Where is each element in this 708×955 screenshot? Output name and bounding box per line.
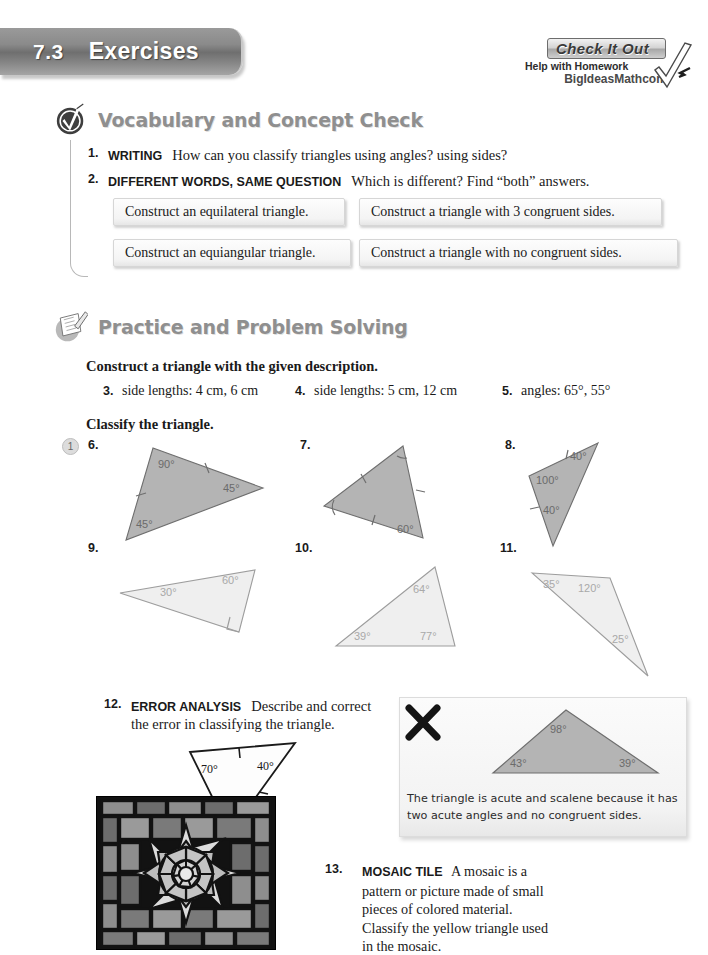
figure-7-triangle: 60°	[315, 438, 445, 548]
page-title: Exercises	[89, 38, 199, 65]
figure-6-angle-2: 45°	[223, 482, 240, 494]
figure-7-number: 7.	[300, 438, 310, 452]
check-it-out-badge[interactable]: Check It Out Help with Homework BigIdeas…	[519, 38, 694, 96]
question-2-tag: DIFFERENT WORDS, SAME QUESTION	[108, 175, 341, 189]
figure-12-angle-1: 70°	[201, 762, 218, 776]
figure-8-number: 8.	[505, 438, 515, 452]
mosaic-tile-photo	[96, 796, 276, 950]
question-2-number: 2.	[88, 172, 108, 190]
ea-triangle-angle-right: 39°	[619, 757, 636, 769]
exercise-3: 3. side lengths: 4 cm, 6 cm	[103, 383, 258, 399]
choice-option-equilateral[interactable]: Construct an equilateral triangle.	[113, 198, 345, 226]
check-it-out-title: Check It Out	[547, 38, 666, 59]
question-1-number: 1.	[88, 146, 108, 164]
exercise-5-text: angles: 65°, 55°	[521, 383, 610, 398]
exercise-3-text: side lengths: 4 cm, 6 cm	[122, 383, 258, 398]
figure-10-angle-3: 77°	[420, 630, 437, 642]
question-12: 12. ERROR ANALYSIS Describe and correct …	[104, 697, 389, 733]
question-1-text: How can you classify triangles using ang…	[172, 147, 507, 163]
question-2: 2. DIFFERENT WORDS, SAME QUESTION Which …	[88, 172, 678, 190]
question-2-text: Which is different? Find “both” answers.	[351, 173, 589, 189]
vocabulary-bracket	[70, 140, 88, 277]
choice-option-3-congruent-sides[interactable]: Construct a triangle with 3 congruent si…	[359, 198, 662, 226]
x-mark-icon	[404, 704, 442, 742]
figure-12-angle-2: 40°	[257, 759, 274, 773]
figure-8-angle-3: 40°	[543, 504, 560, 516]
figure-7-angle-1: 60°	[397, 523, 414, 535]
section-header-banner: 7.3 Exercises	[0, 28, 243, 75]
figure-9-triangle: 30° 60°	[105, 548, 270, 648]
figure-6-triangle: 90° 45° 45°	[105, 438, 280, 553]
figure-11-angle-3: 25°	[612, 633, 629, 645]
exercise-3-number: 3.	[103, 384, 113, 398]
figure-6-angle-1: 90°	[158, 458, 175, 470]
exercise-4: 4. side lengths: 5 cm, 12 cm	[295, 383, 457, 399]
question-1-tag: WRITING	[108, 149, 162, 163]
vocabulary-heading-text: Vocabulary and Concept Check	[98, 109, 423, 131]
exercise-5: 5. angles: 65°, 55°	[502, 383, 610, 399]
figure-8-triangle: 40° 100° 40°	[520, 438, 620, 553]
check-it-out-url-suffix: com	[642, 72, 667, 86]
check-it-out-subtitle: Help with Homework	[519, 60, 694, 72]
figure-11-angle-1: 35°	[543, 578, 560, 590]
figure-6-angle-3: 45°	[136, 518, 153, 530]
ea-triangle-angle-left: 43°	[510, 757, 527, 769]
figure-11-angle-2: 120°	[578, 582, 601, 594]
ea-triangle-angle-top: 98°	[550, 723, 567, 735]
question-12-number: 12.	[104, 697, 124, 711]
question-12-tag: ERROR ANALYSIS	[131, 700, 241, 714]
figure-9-angle-2: 60°	[222, 574, 239, 586]
practice-heading-text: Practice and Problem Solving	[98, 316, 408, 338]
figure-10-triangle: 64° 39° 77°	[310, 548, 495, 658]
question-13-number: 13.	[325, 862, 342, 876]
question-1: 1. WRITING How can you classify triangle…	[88, 146, 648, 164]
figure-10-angle-2: 39°	[354, 630, 371, 642]
figure-8-angle-1: 40°	[570, 450, 587, 462]
checkmark-badge-icon	[54, 103, 88, 137]
figure-10-angle-1: 64°	[413, 583, 430, 595]
example-reference-bubble: 1	[62, 438, 79, 455]
choice-option-equiangular[interactable]: Construct an equiangular triangle.	[113, 239, 351, 267]
practice-section-heading: Practice and Problem Solving	[54, 310, 408, 344]
vocabulary-section-heading: Vocabulary and Concept Check	[54, 103, 423, 137]
instruction-construct: Construct a triangle with the given desc…	[86, 358, 378, 375]
exercise-4-text: side lengths: 5 cm, 12 cm	[314, 383, 457, 398]
figure-9-number: 9.	[88, 541, 98, 555]
figure-8-angle-2: 100°	[536, 474, 559, 486]
figure-9-angle-1: 30°	[160, 586, 177, 598]
figure-11-number: 11.	[500, 541, 517, 555]
error-analysis-triangle: 98° 43° 39°	[488, 703, 683, 783]
error-analysis-statement: The triangle is acute and scalene becaus…	[401, 790, 686, 824]
check-it-out-url: BigIdeasMathcom	[519, 72, 694, 86]
exercise-4-number: 4.	[295, 384, 305, 398]
figure-6-number: 6.	[88, 438, 98, 452]
notepad-pencil-icon	[54, 310, 88, 344]
figure-11-triangle: 35° 120° 25°	[520, 548, 665, 683]
choice-option-no-congruent-sides[interactable]: Construct a triangle with no congruent s…	[359, 239, 678, 267]
section-number: 7.3	[33, 40, 64, 64]
question-13-tag: MOSAIC TILE	[362, 865, 443, 879]
instruction-classify: Classify the triangle.	[86, 416, 214, 433]
check-it-out-url-main: BigIdeasMath	[564, 72, 642, 86]
exercise-5-number: 5.	[502, 384, 512, 398]
